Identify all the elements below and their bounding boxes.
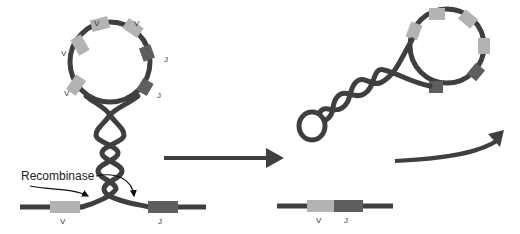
- loop-label-j-1: J: [164, 55, 168, 64]
- joined-vj-dna: V J: [277, 200, 393, 225]
- transition-arrow: [164, 148, 284, 168]
- excised-v-segment-2: [429, 8, 445, 20]
- excised-small-loop: [299, 112, 325, 140]
- loop-label-v-3: V: [94, 19, 100, 28]
- joined-v-segment: [307, 200, 334, 212]
- joined-v-label: V: [316, 216, 322, 225]
- loop-j-segment-1: [139, 44, 155, 61]
- left-bottom-dna: V J: [20, 201, 206, 226]
- joined-j-segment: [334, 200, 363, 212]
- recombinase-label: Recombinase: [21, 169, 95, 183]
- left-helix-stem: [82, 96, 150, 207]
- bottom-j-segment: [148, 201, 178, 213]
- loop-label-j-2: J: [157, 91, 161, 100]
- release-arrow: [395, 130, 504, 161]
- joined-j-label: J: [344, 216, 348, 225]
- loop-label-v-4: V: [134, 19, 140, 28]
- bottom-j-label: J: [158, 217, 162, 226]
- left-loop-segments: [66, 16, 155, 96]
- excised-v-segment-4: [478, 38, 490, 54]
- vdj-recombination-diagram: V V V V J J V J Recombinase: [0, 0, 520, 234]
- release-arrow-shaft: [395, 140, 498, 161]
- loop-j-segment-2: [136, 78, 153, 96]
- right-panel: V J: [277, 8, 504, 225]
- bottom-v-label: V: [60, 217, 66, 226]
- left-panel: V V V V J J V J Recombinase: [20, 16, 206, 226]
- loop-label-v-1: V: [64, 89, 70, 98]
- loop-v-segment-3: [90, 16, 110, 32]
- excised-j-segment-1: [467, 63, 485, 81]
- transition-arrow-head: [266, 148, 284, 168]
- recombinase-pointer-left: [30, 186, 88, 196]
- recombinase-annotation: Recombinase: [21, 169, 134, 196]
- loop-label-v-2: V: [61, 49, 67, 58]
- bottom-v-segment: [50, 201, 80, 213]
